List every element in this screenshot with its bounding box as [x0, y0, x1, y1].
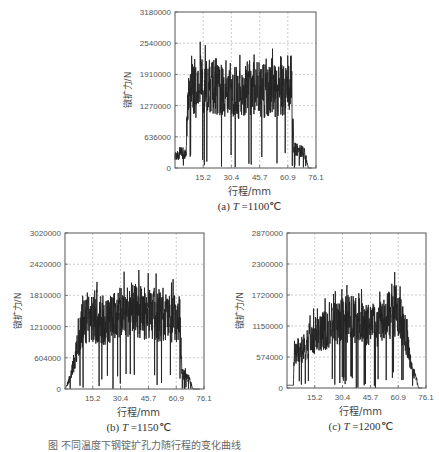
x-tick-label: 76.1: [418, 393, 434, 402]
y-tick-label: 0: [279, 384, 284, 393]
subplot-caption: (c) T =1200℃: [328, 420, 392, 433]
figure-caption: 图 不同温度下钢锭扩孔力随行程的变化曲线: [48, 437, 408, 452]
x-tick-label: 30.4: [335, 393, 351, 402]
x-tick-label: 15.2: [307, 393, 323, 402]
y-tick-label: 2870000: [252, 229, 284, 238]
x-axis-label: 行程/mm: [339, 405, 382, 417]
x-tick-label: 60.9: [390, 393, 406, 402]
y-tick-label: 1150000: [252, 322, 283, 331]
y-tick-label: 574000: [256, 353, 283, 362]
y-axis-label: 镦扩力/N: [234, 292, 245, 329]
x-tick-label: 45.7: [363, 393, 379, 402]
y-tick-label: 2300000: [252, 260, 284, 269]
y-tick-label: 1720000: [252, 291, 284, 300]
